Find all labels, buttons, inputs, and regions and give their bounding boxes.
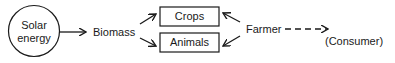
farmer-label: Farmer (246, 24, 281, 35)
consumer-label: (Consumer) (325, 36, 383, 47)
biomass-label: Biomass (93, 27, 135, 38)
arrow-farmer-to-animals (223, 36, 240, 46)
solar-energy-line2: energy (14, 32, 54, 45)
arrow-biomass-to-animals (140, 38, 156, 46)
crops-label: Crops (160, 11, 219, 22)
arrow-farmer-to-crops (223, 13, 240, 22)
solar-energy-label: Solar energy (14, 19, 54, 45)
solar-energy-line1: Solar (14, 19, 54, 32)
arrow-biomass-to-crops (140, 14, 156, 24)
animals-label: Animals (160, 37, 219, 48)
